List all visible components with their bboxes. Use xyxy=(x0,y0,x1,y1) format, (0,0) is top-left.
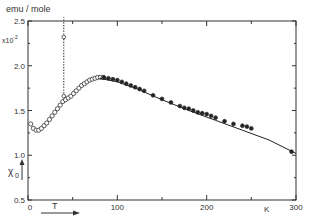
x-tick-label: 0 xyxy=(28,203,33,212)
data-point xyxy=(214,116,218,120)
x-tick-label: 200 xyxy=(200,203,214,212)
data-series xyxy=(29,17,296,154)
data-point xyxy=(29,122,33,126)
y-tick-label: 1.0 xyxy=(14,151,26,160)
series-filled-circle xyxy=(102,75,293,153)
multiplier-base: x10 xyxy=(2,37,13,44)
data-point xyxy=(249,126,253,130)
y-tick-label: 2.5 xyxy=(14,17,26,26)
chi-axis-label: χ 0 xyxy=(8,159,25,180)
kelvin-unit-label: K xyxy=(264,205,270,214)
chi-subscript: 0 xyxy=(15,172,19,179)
data-point xyxy=(223,119,227,123)
data-point xyxy=(62,35,66,39)
y-multiplier-label: x10-2 xyxy=(2,34,18,44)
y-tick-label: 2.0 xyxy=(14,62,26,71)
y-units-label: emu / mole xyxy=(6,4,51,14)
data-point xyxy=(245,125,249,129)
chi-symbol: χ xyxy=(8,166,14,177)
t-symbol: T xyxy=(52,201,58,211)
t-axis-label: T xyxy=(41,201,80,216)
series-line xyxy=(99,78,296,153)
series-dot xyxy=(62,17,66,98)
data-point xyxy=(232,122,236,126)
data-point xyxy=(62,94,66,98)
fit-curve xyxy=(99,78,296,153)
multiplier-exponent: -2 xyxy=(13,34,18,40)
tick-labels: 01002003000.51.01.52.02.5 xyxy=(14,17,303,212)
tick-marks xyxy=(28,21,296,200)
series-open-circle xyxy=(29,75,106,132)
x-arrow-icon xyxy=(73,211,80,216)
y-tick-label: 0.5 xyxy=(14,196,26,205)
data-point xyxy=(241,124,245,128)
x-tick-label: 300 xyxy=(289,203,303,212)
susceptibility-plot: 01002003000.51.01.52.02.5 emu / mole x10… xyxy=(0,0,313,221)
data-point xyxy=(205,112,209,116)
y-tick-label: 1.5 xyxy=(14,107,26,116)
data-point xyxy=(209,114,213,118)
plot-axes xyxy=(28,21,296,200)
x-tick-label: 100 xyxy=(111,203,125,212)
plot-frame xyxy=(28,21,296,200)
